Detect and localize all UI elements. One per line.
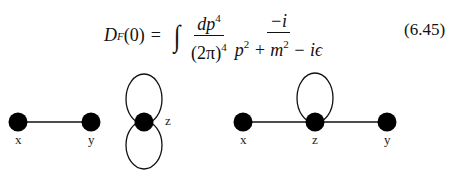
vertex-x: [234, 113, 253, 132]
vertex-z: [306, 113, 325, 132]
vertex-y: [82, 113, 101, 132]
vertex-x: [9, 113, 28, 132]
label-z: z: [312, 132, 318, 147]
vertex-y: [378, 113, 397, 132]
feynman-diagrams: x y z x z y: [0, 0, 452, 181]
diagram-left: [9, 74, 163, 169]
label-x: x: [15, 132, 22, 147]
diagram-right: [234, 73, 397, 132]
label-z: z: [165, 113, 171, 128]
label-y: y: [88, 132, 95, 147]
label-y: y: [384, 132, 391, 147]
label-x: x: [240, 132, 247, 147]
vertex-z: [135, 113, 154, 132]
